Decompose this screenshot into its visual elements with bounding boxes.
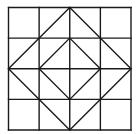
geometric-diagram [0,0,137,134]
background [0,0,137,134]
